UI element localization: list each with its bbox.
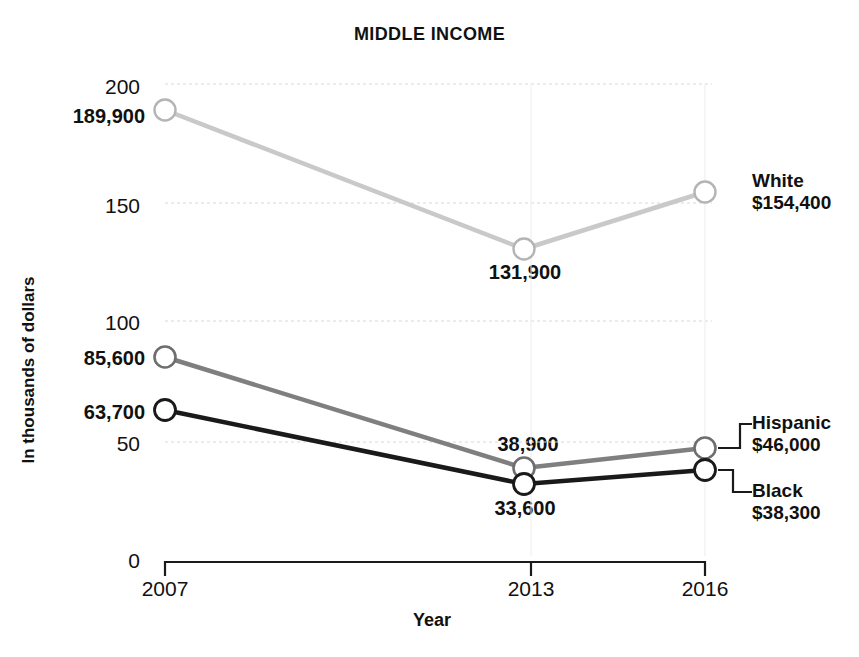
series-markers-hispanic — [155, 347, 716, 479]
x-axis-line — [165, 562, 705, 576]
series-line-hispanic — [165, 357, 705, 468]
leader-line-hispanic — [718, 424, 752, 448]
gridlines-vertical — [531, 84, 705, 556]
gridlines-horizontal — [165, 84, 712, 442]
chart-container: MIDDLE INCOME In thousands of dollars Ye… — [0, 0, 859, 657]
leader-line-black — [718, 470, 752, 492]
series-markers-white — [155, 100, 716, 260]
series-line-white — [165, 110, 705, 249]
series-line-black — [165, 410, 705, 484]
series-markers-black — [155, 400, 716, 495]
plot-area — [0, 0, 859, 657]
